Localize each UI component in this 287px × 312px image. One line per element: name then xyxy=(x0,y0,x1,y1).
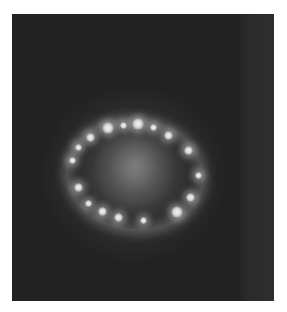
ring-knot xyxy=(98,207,107,216)
ring-knot xyxy=(164,131,173,140)
ring-knot xyxy=(85,200,92,207)
ring-knot xyxy=(120,122,127,129)
ring-knot xyxy=(171,206,183,218)
ring-knot xyxy=(184,146,193,155)
ring-knot xyxy=(150,124,157,131)
ring-knot xyxy=(132,118,144,130)
ring-knot xyxy=(75,144,82,151)
ring-knot xyxy=(195,172,202,179)
astronomical-image xyxy=(12,14,274,301)
ring-knot xyxy=(140,217,147,224)
ring-knot xyxy=(114,213,123,222)
ring-knot xyxy=(69,157,76,164)
ring-knot xyxy=(86,133,95,142)
ring-knot xyxy=(186,193,195,202)
ring-knot xyxy=(102,122,114,134)
ring-knot xyxy=(74,183,83,192)
